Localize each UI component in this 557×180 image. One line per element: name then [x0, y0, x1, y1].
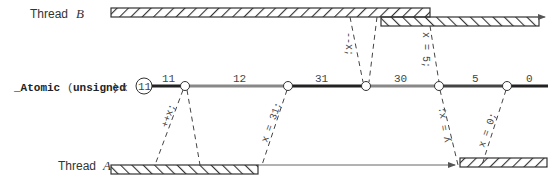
svg-text:5: 5 — [472, 73, 479, 85]
svg-text:A: A — [102, 158, 111, 173]
svg-text:): ) — [112, 82, 119, 94]
op-a-increment: ++x; — [159, 103, 178, 129]
thread-a-bar-1 — [111, 165, 258, 174]
svg-text:11: 11 — [162, 73, 176, 85]
svg-text:11: 11 — [138, 81, 152, 93]
svg-text:x: x — [121, 82, 128, 94]
thread-b-label: Thread B — [30, 6, 84, 21]
svg-text:0: 0 — [526, 73, 533, 85]
thread-a-label: Thread A — [58, 158, 111, 173]
op-a-store: x = 31; — [259, 101, 284, 144]
op-b-store: x = 5; — [420, 32, 431, 68]
thread-b-bar-2 — [381, 17, 539, 26]
op-b-decrement: --x; — [343, 32, 354, 56]
svg-text:_Atomic: _Atomic — [13, 82, 60, 94]
event-node — [435, 82, 444, 91]
svg-text:Thread: Thread — [58, 159, 96, 173]
event-node — [362, 82, 371, 91]
op-a-load: y = x; — [436, 106, 453, 143]
svg-text:B: B — [76, 6, 84, 21]
svg-text:30: 30 — [394, 73, 407, 85]
event-node — [181, 82, 190, 91]
thread-a-bar-2 — [460, 158, 547, 167]
variable-label: _Atomic ( unsigned ) x — [13, 82, 128, 94]
event-node — [503, 82, 512, 91]
event-node — [284, 82, 293, 91]
svg-text:Thread: Thread — [30, 7, 68, 21]
op-a-zero: x = 0; — [476, 111, 499, 149]
svg-text:12: 12 — [233, 73, 246, 85]
atomic-timeline-diagram: Thread B _Atomic ( unsigned ) x 11 11 12… — [0, 0, 557, 180]
svg-text:31: 31 — [315, 73, 329, 85]
thread-b-bar-1 — [111, 8, 430, 17]
